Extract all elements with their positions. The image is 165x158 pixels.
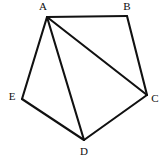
- figure-canvas: [0, 0, 165, 158]
- vertex-label-e: E: [9, 91, 16, 102]
- edge-group: [22, 16, 147, 140]
- edge-cd: [84, 95, 147, 140]
- geometry-figure: ABCDE: [0, 0, 165, 158]
- edge-ad: [47, 17, 84, 140]
- vertex-label-c: C: [151, 93, 158, 104]
- vertex-label-d: D: [80, 146, 88, 157]
- edge-bc: [127, 16, 147, 95]
- edge-ab: [47, 16, 127, 17]
- vertex-label-b: B: [123, 1, 130, 12]
- edge-ea: [22, 17, 47, 99]
- edge-de: [22, 99, 84, 140]
- edge-ac: [47, 17, 147, 95]
- vertex-label-a: A: [39, 1, 47, 12]
